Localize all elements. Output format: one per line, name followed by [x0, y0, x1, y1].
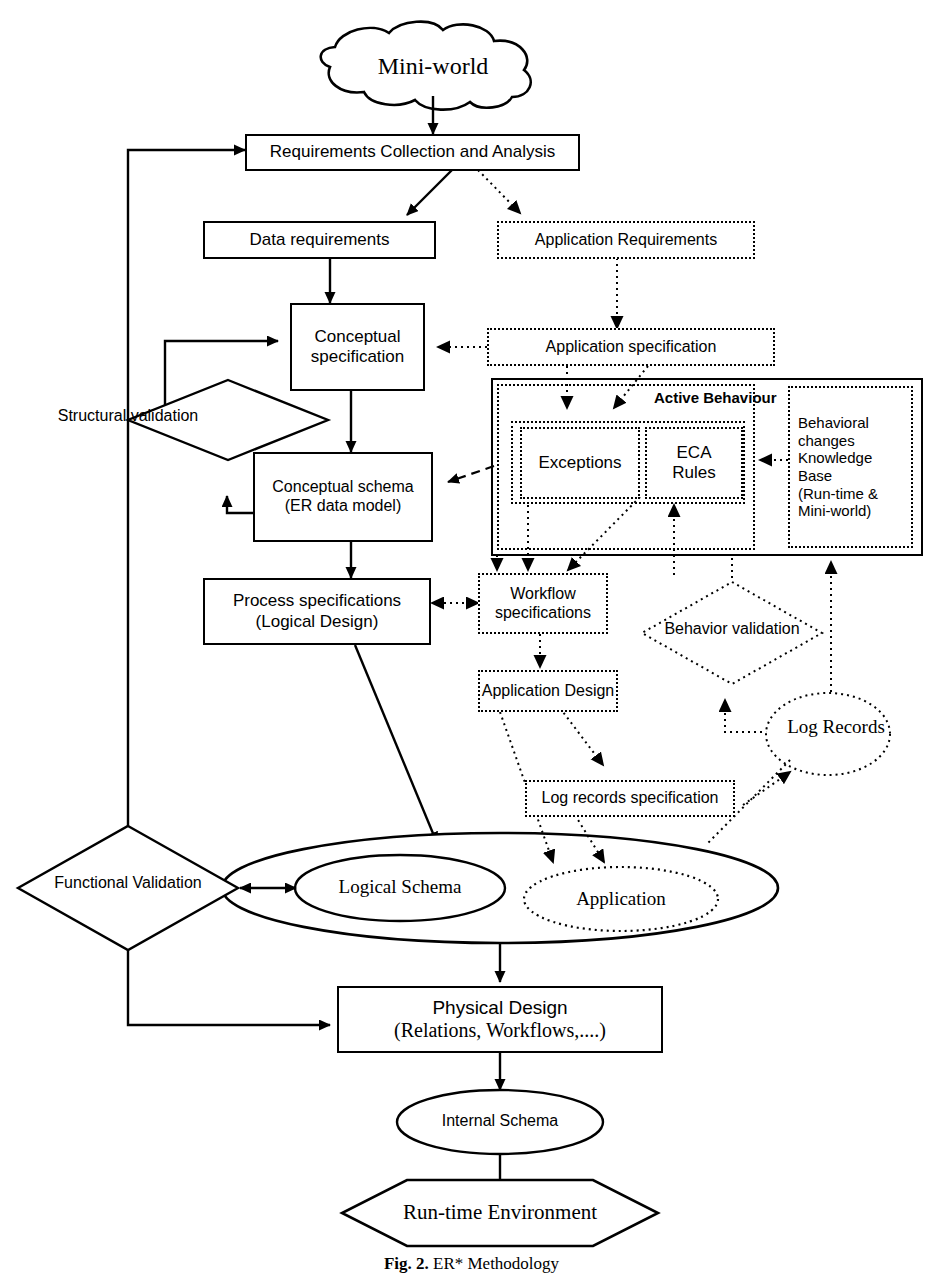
figure-caption-text: ER* Methodology [429, 1254, 559, 1273]
internal-schema-label: Internal Schema [390, 1111, 610, 1130]
edge-log-records-to-behavior-validation [725, 700, 768, 732]
node-application-requirements[interactable]: Application Requirements [497, 221, 755, 259]
edge-log-records-spec-to-log-records [743, 772, 790, 805]
runtime-environment-label: Run-time Environment [350, 1200, 650, 1225]
node-data-requirements[interactable]: Data requirements [203, 221, 436, 259]
node-conceptual-specification[interactable]: Conceptual specification [290, 303, 425, 391]
node-eca-rules[interactable]: ECA Rules [645, 427, 743, 499]
node-process-specifications[interactable]: Process specifications (Logical Design) [203, 578, 431, 645]
node-conceptual-schema[interactable]: Conceptual schema (ER data model) [253, 452, 433, 542]
edge-functional-validation-to-physical-design [128, 950, 330, 1025]
active-behaviour-title: Active Behaviour [654, 389, 777, 406]
node-requirements-collection[interactable]: Requirements Collection and Analysis [245, 134, 580, 171]
node-workflow-specifications[interactable]: Workflow specifications [478, 573, 608, 634]
figure-canvas: Structural validation Behavior validatio… [0, 0, 943, 1274]
figure-caption-number: Fig. 2. [384, 1254, 429, 1273]
mini-world-label: Mini-world [303, 52, 563, 81]
edge-requirements-to-app-requirements [478, 170, 520, 213]
edge-requirements-to-data-requirements [407, 170, 452, 215]
edge-process-specs-to-system-ellipse [355, 645, 437, 843]
log-records-label: Log Records [776, 716, 896, 739]
edge-eca-rules-to-conceptual-schema [448, 466, 494, 482]
node-application-specification[interactable]: Application specification [487, 328, 775, 366]
node-behavioral-changes-knowledge-base[interactable]: Behavioral changes Knowledge Base (Run-t… [788, 386, 913, 548]
node-exceptions[interactable]: Exceptions [520, 427, 640, 499]
edge-conceptual-schema-to-structural-validation [227, 496, 255, 513]
node-physical-design[interactable]: Physical Design (Relations, Workflows,..… [337, 986, 663, 1053]
logical-schema-label: Logical Schema [300, 876, 500, 899]
figure-caption: Fig. 2. ER* Methodology [0, 1254, 943, 1274]
edge-app-design-to-log-records-spec [560, 708, 603, 765]
node-log-records-specification[interactable]: Log records specification [525, 780, 735, 817]
behavior-validation-label: Behavior validation [647, 619, 817, 638]
functional-validation-label: Functional Validation [28, 873, 228, 892]
application-label: Application [521, 888, 721, 911]
node-application-design[interactable]: Application Design [478, 670, 618, 712]
structural-validation-label: Structural validation [28, 406, 228, 425]
